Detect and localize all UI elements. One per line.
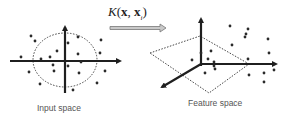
input-point [67,42,70,45]
input-point [104,70,107,73]
input-point [77,36,80,39]
feature-point [267,38,270,41]
input-point [49,56,52,59]
feature-space-caption: Feature space [188,98,242,108]
input-space-panel [10,27,120,93]
feature-point [207,58,210,61]
feature-point [200,52,203,55]
input-point [78,72,81,75]
feature-point [213,65,216,68]
feature-point [263,72,266,75]
input-point [30,35,33,38]
input-point [100,39,103,42]
input-space-caption: Input space [37,103,81,113]
feature-point [247,28,250,31]
feature-point [231,44,234,47]
kernel-function-label: K(x, xi) [108,4,147,22]
kernel-close-paren: ) [142,4,146,19]
input-point [72,89,75,92]
input-point [56,50,59,53]
input-point [99,52,102,55]
input-point [52,64,55,67]
input-point [67,65,70,68]
feature-point [248,74,251,77]
input-point [77,53,80,56]
feature-space-panel [150,19,276,93]
feature-point [263,81,266,84]
feature-point [191,59,194,62]
feature-point [273,69,276,72]
feature-point [229,25,232,28]
input-point [96,82,99,85]
feature-point [214,68,217,71]
input-point [80,61,83,64]
input-point [53,70,56,73]
feature-points [191,25,276,84]
kernel-func: K [108,4,117,19]
feature-point [210,50,213,53]
input-point [39,83,42,86]
input-point [28,71,31,74]
input-points [20,35,107,92]
input-point [34,40,37,43]
input-point [40,58,43,61]
feature-point [247,58,250,61]
feature-point [204,72,207,75]
right-arrow-icon [110,24,166,32]
input-point [20,56,23,59]
feature-point [245,33,248,36]
feature-point [244,36,247,39]
feature-point [213,61,216,64]
feature-point [268,52,271,55]
